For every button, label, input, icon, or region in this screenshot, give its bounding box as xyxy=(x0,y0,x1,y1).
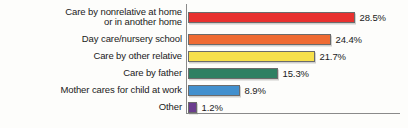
category-label: Care by other relative xyxy=(0,51,182,62)
bar[interactable] xyxy=(188,68,278,79)
bar-group: 1.2% xyxy=(188,99,223,116)
bar[interactable] xyxy=(188,51,315,62)
bar-group: 15.3% xyxy=(188,65,309,82)
bar[interactable] xyxy=(188,12,355,23)
bar[interactable] xyxy=(188,85,240,96)
bar-value-label: 8.9% xyxy=(245,85,266,96)
chart-row: Care by other relative 21.7% xyxy=(0,48,408,65)
horizontal-bar-chart: Care by nonrelative at home or in anothe… xyxy=(0,0,408,128)
category-label: Care by nonrelative at home or in anothe… xyxy=(0,7,182,28)
bar-value-label: 28.5% xyxy=(360,12,386,23)
chart-row: Mother cares for child at work 8.9% xyxy=(0,82,408,99)
bar-value-label: 21.7% xyxy=(320,51,346,62)
chart-row: Care by father 15.3% xyxy=(0,65,408,82)
chart-row: Care by nonrelative at home or in anothe… xyxy=(0,4,408,30)
bar-group: 24.4% xyxy=(188,31,362,48)
bar-group: 21.7% xyxy=(188,48,346,65)
bar[interactable] xyxy=(188,102,197,113)
bar[interactable] xyxy=(188,34,331,45)
bar-value-label: 15.3% xyxy=(283,68,309,79)
category-label: Other xyxy=(0,102,182,113)
bar-group: 28.5% xyxy=(188,4,386,30)
bar-value-label: 24.4% xyxy=(336,34,362,45)
category-label: Day care/nursery school xyxy=(0,34,182,45)
category-label: Mother cares for child at work xyxy=(0,85,182,96)
bar-value-label: 1.2% xyxy=(202,102,223,113)
chart-row: Day care/nursery school 24.4% xyxy=(0,31,408,48)
bar-group: 8.9% xyxy=(188,82,266,99)
chart-row: Other 1.2% xyxy=(0,99,408,116)
category-label: Care by father xyxy=(0,68,182,79)
